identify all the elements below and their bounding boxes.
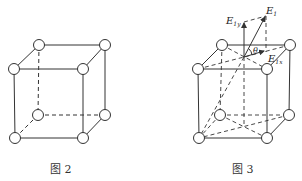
label-e1: E1 <box>265 5 277 17</box>
figure-2-caption: 图 2 <box>50 160 72 176</box>
figure-2-cube <box>14 45 105 138</box>
diagram-canvas: E1 E1y E1x θ <box>0 0 302 181</box>
label-theta: θ <box>253 46 258 55</box>
label-e1y: E1y <box>225 15 241 28</box>
figure-3-caption: 图 3 <box>232 160 254 176</box>
theta-arc <box>249 49 252 55</box>
